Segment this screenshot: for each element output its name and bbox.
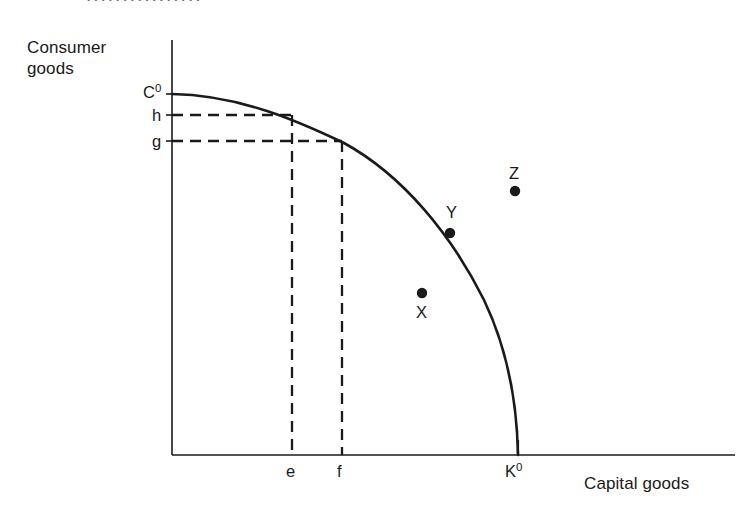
point-label-x: X — [416, 302, 427, 322]
ppf-curve — [172, 94, 518, 455]
y-tick-label-c0: C0 — [143, 82, 161, 102]
y-tick-label-c0-sup: 0 — [155, 82, 161, 94]
x-axis-title: Capital goods — [584, 474, 689, 495]
x-tick-label-e: e — [286, 461, 295, 481]
point-x-dot — [417, 288, 427, 298]
ppf-plot-svg — [0, 0, 741, 520]
y-axis-title-line1: Consumer — [27, 38, 106, 57]
point-y-dot — [445, 228, 455, 238]
y-axis-title-line2: goods — [27, 59, 74, 78]
point-label-z: Z — [509, 163, 519, 183]
y-tick-label-h: h — [152, 105, 161, 125]
x-tick-label-k0: K0 — [505, 461, 522, 481]
x-tick-label-k0-base: K — [505, 462, 516, 480]
x-tick-label-k0-sup: 0 — [516, 461, 522, 473]
point-label-y: Y — [446, 202, 457, 222]
y-tick-label-c0-base: C — [143, 83, 155, 101]
point-z-dot — [510, 186, 520, 196]
x-tick-label-f: f — [337, 461, 342, 481]
y-axis-title: Consumergoods — [27, 38, 106, 79]
ppf-figure: ................ Consumergoods Capital g… — [0, 0, 741, 520]
y-tick-label-g: g — [152, 131, 161, 151]
